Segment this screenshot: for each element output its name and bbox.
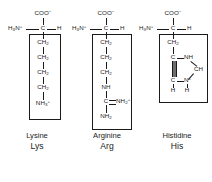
amino-acid-histidine: COO− H3N+ C H CH2 C NH CH C N+ (142, 0, 212, 182)
side-chain-atom-arginine-3: CH2 (100, 69, 112, 76)
alpha-hydrogen-label-lysine: H (57, 25, 62, 31)
side-chain-atom-lysine-5: NH3+ (36, 100, 50, 107)
side-chain-atom-arginine-2: CH2 (100, 54, 112, 61)
ring-carbon-delta-histidine: C (171, 77, 176, 83)
amino-group-label-lysine: H3N+ (8, 25, 22, 32)
guanidinium-nh2-plus-arginine: NH2+ (116, 98, 130, 105)
bond-alpha-hydrogen-arginine (110, 29, 119, 30)
caption-histidine-full: Histidine (142, 131, 212, 141)
ring-double-bond-histidine (172, 61, 177, 77)
caption-arginine-full: Arginine (72, 131, 142, 141)
caption-arginine-abbr: Arg (72, 141, 142, 152)
ring-nitrogen-hydrogen-histidine: H (185, 87, 190, 93)
ring-carbon-epsilon-histidine: CH (194, 66, 203, 72)
ring-carbon-hydrogen-histidine: H (171, 87, 176, 93)
carboxylate-label-arginine: COO− (97, 10, 114, 16)
caption-histidine: Histidine His (142, 131, 212, 152)
carboxylate-label-lysine: COO− (34, 10, 51, 16)
amino-acid-lysine: COO− H3N+ C H CH2 CH2 CH2 CH2 NH3+ (2, 0, 72, 182)
bond-alpha-hydrogen-lysine (47, 29, 56, 30)
amino-group-label-histidine: H3N+ (139, 25, 153, 32)
side-chain-atom-arginine-1: CH2 (100, 39, 112, 46)
caption-arginine: Arginine Arg (72, 131, 142, 152)
side-chain-atom-lysine-2: CH2 (37, 54, 49, 61)
alpha-carbon-label-histidine: C (171, 25, 176, 31)
side-chain-atom-lysine-1: CH2 (37, 39, 49, 46)
side-chain-atom-arginine-4: NH (101, 84, 110, 90)
guanidinium-nh2-arginine: NH2 (100, 113, 112, 120)
carboxylate-label-histidine: COO− (164, 10, 181, 16)
ring-nitrogen-delta-histidine: NH (184, 54, 193, 60)
side-chain-atom-lysine-4: CH2 (37, 84, 49, 91)
caption-lysine: Lysine Lys (2, 131, 72, 152)
alpha-hydrogen-label-arginine: H (120, 25, 125, 31)
guanidinium-carbon-arginine: C (104, 98, 109, 104)
bond-amino-alpha-lysine (26, 29, 39, 30)
caption-lysine-abbr: Lys (2, 141, 72, 152)
bond-amino-alpha-arginine (90, 29, 102, 30)
caption-lysine-full: Lysine (2, 131, 72, 141)
alpha-carbon-label-arginine: C (104, 25, 109, 31)
bond-ring-c-nh-histidine (177, 58, 184, 59)
alpha-carbon-label-lysine: C (41, 25, 46, 31)
caption-histidine-abbr: His (142, 141, 212, 152)
amino-acid-arginine: COO− H3N+ C H CH2 CH2 CH2 NH C NH2+ NH2 … (72, 0, 142, 182)
side-chain-atom-histidine-1: CH2 (167, 39, 179, 46)
bond-amino-alpha-histidine (157, 29, 169, 30)
double-bond-guanidinium-arginine (109, 100, 116, 105)
amino-acid-structures-figure: COO− H3N+ C H CH2 CH2 CH2 CH2 NH3+ (0, 0, 212, 182)
ring-carbon-gamma-histidine: C (171, 54, 176, 60)
amino-group-label-arginine: H3N+ (72, 25, 86, 32)
bond-ring-c-n-histidine (177, 81, 184, 82)
side-chain-atom-lysine-3: CH2 (37, 69, 49, 76)
bond-alpha-hydrogen-histidine (177, 29, 186, 30)
alpha-hydrogen-label-histidine: H (187, 25, 192, 31)
ring-nitrogen-epsilon-histidine: N+ (184, 77, 191, 83)
